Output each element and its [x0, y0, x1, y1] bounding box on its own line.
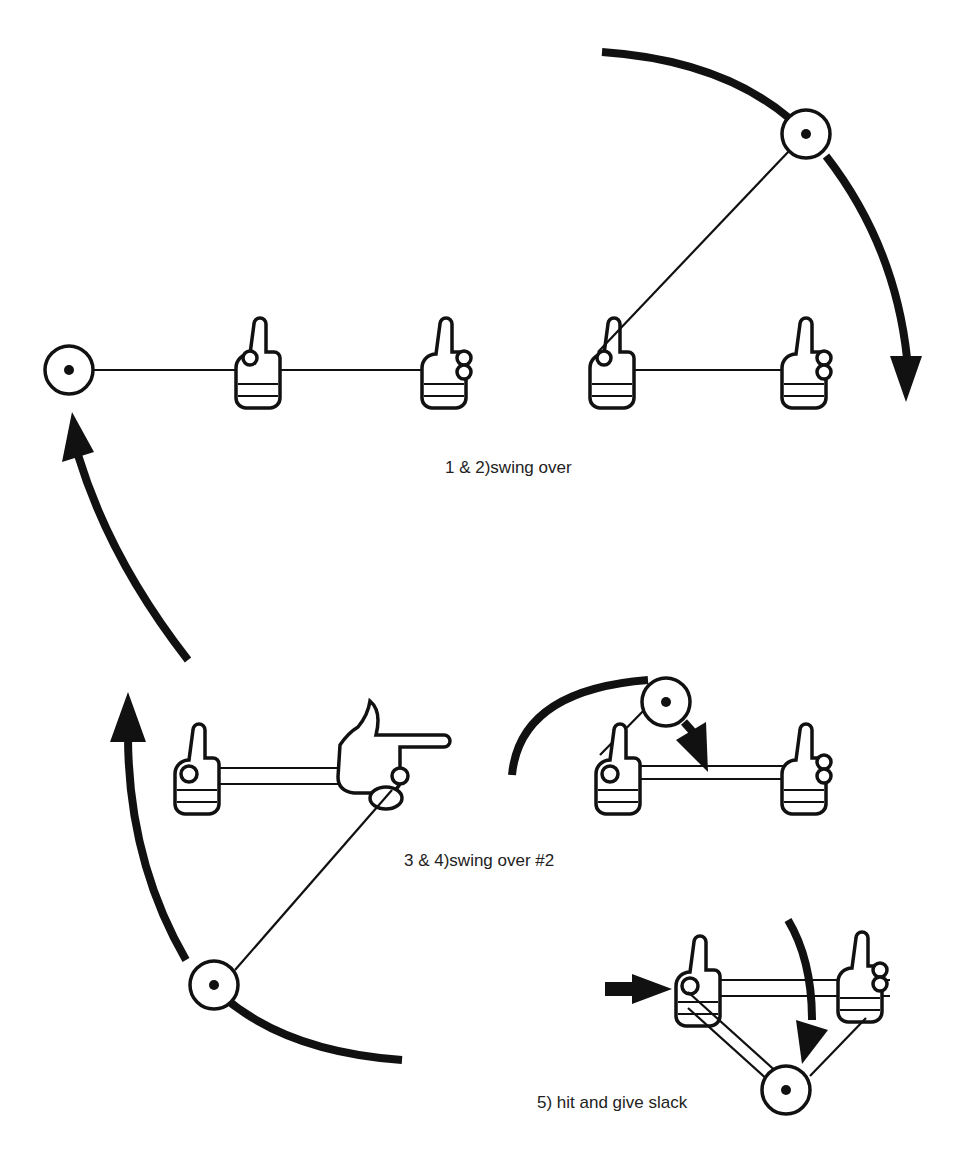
arrow-head-icon	[890, 356, 922, 402]
hand-icon	[175, 724, 219, 814]
hand-icon	[782, 724, 831, 814]
rope-line	[810, 1018, 866, 1076]
arrow-head-icon	[796, 1020, 828, 1064]
step-3-4-caption: 3 & 4)swing over #2	[404, 851, 554, 871]
rope-line	[598, 150, 790, 352]
step-5-caption: 5) hit and give slack	[537, 1093, 687, 1113]
step-5-illustration	[605, 920, 890, 1114]
rope-line	[688, 1008, 770, 1082]
hand-icon	[590, 318, 634, 408]
arrow-head-icon	[632, 974, 672, 1004]
hand-icon	[782, 318, 831, 408]
rope-line	[235, 790, 392, 970]
hand-icon	[596, 724, 640, 814]
rope-line	[688, 992, 780, 1075]
arrow-shaft	[605, 982, 635, 996]
hand-icon	[236, 318, 280, 408]
ball-icon	[762, 1066, 810, 1114]
arrow-head-icon	[62, 412, 94, 462]
ball-icon	[190, 961, 238, 1009]
hand-icon	[838, 932, 887, 1022]
motion-arc	[602, 52, 789, 118]
motion-arc	[788, 920, 812, 1020]
motion-arc	[826, 156, 907, 358]
ball-icon	[642, 678, 690, 726]
step-1-2-illustration	[45, 52, 922, 660]
ball-icon	[782, 110, 830, 158]
ball-icon	[45, 346, 93, 394]
hand-icon	[422, 318, 471, 408]
swing-over-diagram	[0, 0, 953, 1167]
pointing-hand-icon	[338, 701, 450, 809]
arrow-head-icon	[110, 692, 146, 742]
hand-icon	[676, 936, 720, 1026]
step-1-2-caption: 1 & 2)swing over	[445, 458, 572, 478]
motion-arc	[78, 455, 188, 660]
